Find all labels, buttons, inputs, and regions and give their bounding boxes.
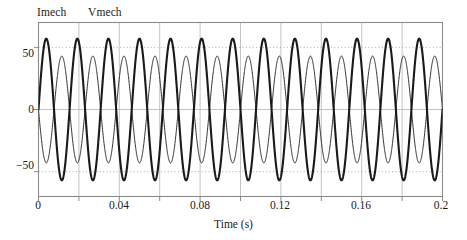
xtick-label-0.12: 0.12	[258, 199, 302, 211]
ytick-label-minus50: −50	[2, 159, 34, 171]
xtick-label-0.2: 0.2	[419, 199, 463, 211]
chart-figure: Imech Vmech 50 0 −50 0 0.04 0.08 0.12 0.…	[0, 0, 467, 240]
xtick-label-0.08: 0.08	[178, 199, 222, 211]
plot-area	[0, 0, 467, 240]
ytick-label-0: 0	[2, 103, 34, 115]
x-axis-title: Time (s)	[0, 218, 467, 230]
ytick-label-50: 50	[2, 47, 34, 59]
xtick-label-0: 0	[16, 199, 60, 211]
xtick-label-0.04: 0.04	[97, 199, 141, 211]
xtick-label-0.16: 0.16	[339, 199, 383, 211]
